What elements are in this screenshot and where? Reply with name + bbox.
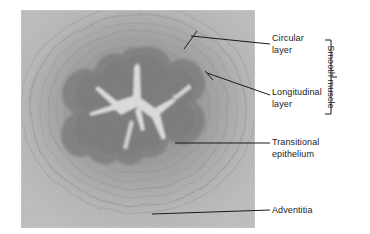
histology-figure: Circular layer Longitudinal layer Transi… [0,0,370,234]
label-transitional-epithelium-line1: Transitional [272,137,319,149]
label-longitudinal-layer: Longitudinal layer [272,87,322,110]
label-transitional-epithelium: Transitional epithelium [272,137,319,160]
film-grain [21,10,255,228]
label-adventitia-line1: Adventitia [272,205,313,217]
label-circular-layer-line1: Circular [272,33,304,45]
ureter-cross-section-micrograph [21,10,255,228]
label-longitudinal-layer-line1: Longitudinal [272,87,322,99]
label-smooth-muscle: Smooth muscle [325,40,336,114]
label-transitional-epithelium-line2: epithelium [272,149,319,161]
label-circular-layer: Circular layer [272,33,304,56]
label-longitudinal-layer-line2: layer [272,99,322,111]
micrograph-svg [21,10,255,228]
label-circular-layer-line2: layer [272,45,304,57]
label-adventitia: Adventitia [272,205,313,217]
